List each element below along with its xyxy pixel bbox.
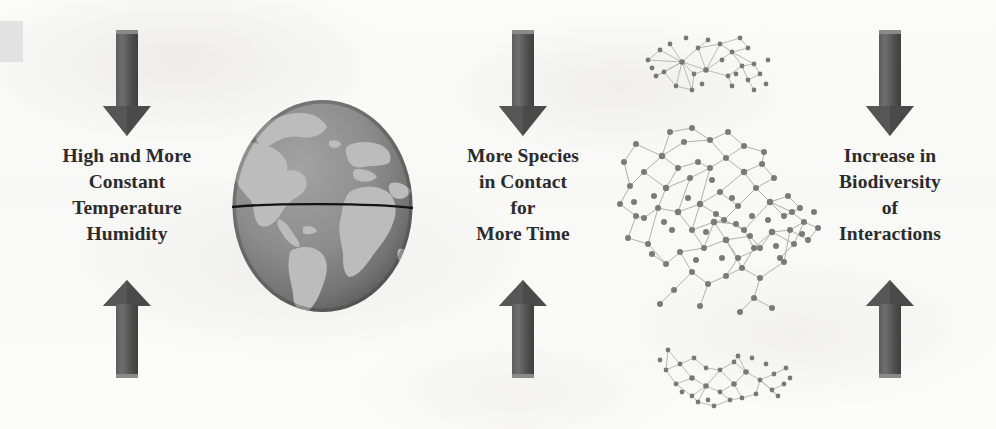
- caption-line: Interactions: [800, 221, 980, 247]
- down-arrow-icon: [862, 28, 918, 140]
- down-arrow-icon: [495, 28, 551, 140]
- up-arrow-icon: [862, 278, 918, 382]
- panel-climate: High and More Constant Temperature Humid…: [18, 0, 236, 429]
- network-graph-main-icon: [604, 112, 830, 328]
- caption-line: of: [800, 195, 980, 221]
- caption-line: Constant: [18, 169, 236, 195]
- panel-contact: More Species in Contact for More Time: [424, 0, 622, 429]
- caption-contact: More Species in Contact for More Time: [424, 143, 622, 247]
- caption-line: High and More: [18, 143, 236, 169]
- caption-line: More Time: [424, 221, 622, 247]
- caption-line: Biodiversity: [800, 169, 980, 195]
- network-graph-bottom-icon: [646, 334, 804, 416]
- caption-line: Temperature: [18, 195, 236, 221]
- caption-line: Increase in: [800, 143, 980, 169]
- down-arrow-icon: [99, 28, 155, 140]
- up-arrow-icon: [495, 278, 551, 382]
- panel-biodiversity: Increase in Biodiversity of Interactions: [800, 0, 980, 429]
- caption-line: in Contact: [424, 169, 622, 195]
- caption-line: More Species: [424, 143, 622, 169]
- caption-biodiversity: Increase in Biodiversity of Interactions: [800, 143, 980, 247]
- caption-line: Humidity: [18, 221, 236, 247]
- up-arrow-icon: [99, 278, 155, 382]
- network-graph-top-icon: [636, 24, 788, 104]
- caption-climate: High and More Constant Temperature Humid…: [18, 143, 236, 247]
- globe-earth-icon: [231, 99, 414, 314]
- figure-canvas: High and More Constant Temperature Humid…: [0, 0, 996, 429]
- caption-line: for: [424, 195, 622, 221]
